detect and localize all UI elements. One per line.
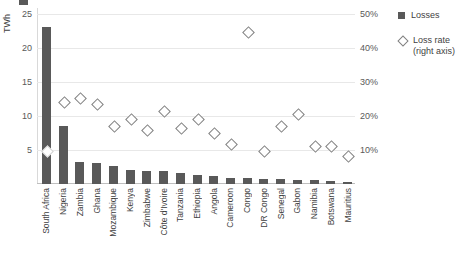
- category-label-south-africa: South Africa: [41, 188, 51, 234]
- loss-rate-marker-zambia: [74, 92, 87, 105]
- bar-nigeria: [59, 126, 68, 184]
- bar-zambia: [75, 162, 84, 184]
- loss-rate-marker-tanzania: [175, 122, 188, 135]
- category-label-mozambique: Mozambique: [108, 188, 118, 237]
- chart-legend: Losses Loss rate (right axis): [398, 10, 458, 71]
- right-axis-tick-40: 40%: [360, 43, 394, 53]
- category-label-namibia: Namibia: [309, 188, 319, 219]
- bar-cameroon: [226, 178, 235, 184]
- bar-ghana: [92, 163, 101, 184]
- category-label-zimbabwe: Zimbabwe: [142, 188, 152, 227]
- bar-mauritius: [343, 182, 352, 184]
- left-axis-tick-15: 15: [6, 77, 32, 87]
- legend-item-loss-rate[interactable]: Loss rate (right axis): [398, 35, 458, 57]
- bar-congo: [243, 178, 252, 184]
- gridline-15: [37, 82, 355, 83]
- diamond-marker-icon: [397, 35, 408, 46]
- category-label-cameroon: Cameroon: [225, 188, 235, 228]
- bar-senegal: [276, 179, 285, 184]
- right-axis-tick-20: 20%: [360, 111, 394, 121]
- gridline-25: [37, 14, 355, 15]
- bar-zimbabwe: [142, 171, 151, 184]
- category-label-senegal: Senegal: [276, 188, 286, 219]
- bar-botswana: [326, 181, 335, 184]
- loss-rate-marker-mozambique: [108, 121, 121, 134]
- loss-rate-marker-senegal: [275, 121, 288, 134]
- category-label-congo: Congo: [242, 188, 252, 213]
- category-label-dr-congo: DR Congo: [259, 188, 269, 228]
- loss-rate-marker-angola: [208, 128, 221, 141]
- bar-dr-congo: [259, 179, 268, 184]
- legend-label-losses: Losses: [411, 10, 440, 21]
- loss-rate-marker-dr-congo: [259, 145, 272, 158]
- gridline-20: [37, 48, 355, 49]
- category-label-tanzania: Tanzania: [175, 188, 185, 222]
- plot-area: [37, 8, 355, 184]
- bar-kenya: [126, 170, 135, 184]
- right-axis-tick-10: 10%: [360, 145, 394, 155]
- loss-rate-marker-gabon: [292, 108, 305, 121]
- chart-root: TWh 25 20 15 10 5 50% 40% 30% 20% 10% So…: [0, 0, 458, 263]
- bar-ethiopia: [193, 175, 202, 184]
- category-label-mauritius: Mauritius: [343, 188, 353, 222]
- category-label-angola: Angola: [209, 188, 219, 214]
- y-axis-line: [37, 8, 38, 184]
- bar-mozambique: [109, 166, 118, 184]
- bar-tanzania: [176, 173, 185, 184]
- legend-label-loss-rate: Loss rate (right axis): [413, 35, 455, 57]
- loss-rate-marker-nigeria: [58, 96, 71, 109]
- gridline-5: [37, 150, 355, 151]
- category-label-nigeria: Nigeria: [58, 188, 68, 215]
- category-label-gabon: Gabon: [292, 188, 302, 214]
- category-label-ethiopia: Ethiopia: [192, 188, 202, 219]
- category-label-kenya: Kenya: [125, 188, 135, 212]
- bar-south-africa: [42, 27, 51, 184]
- right-axis-tick-50: 50%: [360, 9, 394, 19]
- legend-label-loss-rate-line2: (right axis): [413, 46, 455, 57]
- bar-c-te-d-ivoire: [159, 171, 168, 184]
- loss-rate-marker-zimbabwe: [141, 124, 154, 137]
- left-axis-tick-25: 25: [6, 9, 32, 19]
- category-label-zambia: Zambia: [75, 188, 85, 216]
- right-axis-tick-30: 30%: [360, 77, 394, 87]
- category-label-botswana: Botswana: [326, 188, 336, 225]
- cropped-top-fragment: [19, 0, 28, 5]
- legend-label-loss-rate-line1: Loss rate: [413, 35, 455, 46]
- bar-angola: [209, 176, 218, 184]
- left-axis-tick-5: 5: [6, 145, 32, 155]
- bar-namibia: [310, 180, 319, 184]
- category-label-ghana: Ghana: [92, 188, 102, 214]
- loss-rate-marker-cameroon: [225, 138, 238, 151]
- loss-rate-marker-congo: [242, 27, 255, 40]
- square-marker-icon: [398, 12, 405, 19]
- left-axis-tick-10: 10: [6, 111, 32, 121]
- loss-rate-marker-mauritius: [342, 150, 355, 163]
- category-label-c-te-d-ivoire: Côte d'Ivoire: [159, 188, 169, 235]
- bar-gabon: [293, 180, 302, 184]
- loss-rate-marker-ghana: [91, 98, 104, 111]
- legend-item-losses[interactable]: Losses: [398, 10, 458, 21]
- left-axis-tick-20: 20: [6, 43, 32, 53]
